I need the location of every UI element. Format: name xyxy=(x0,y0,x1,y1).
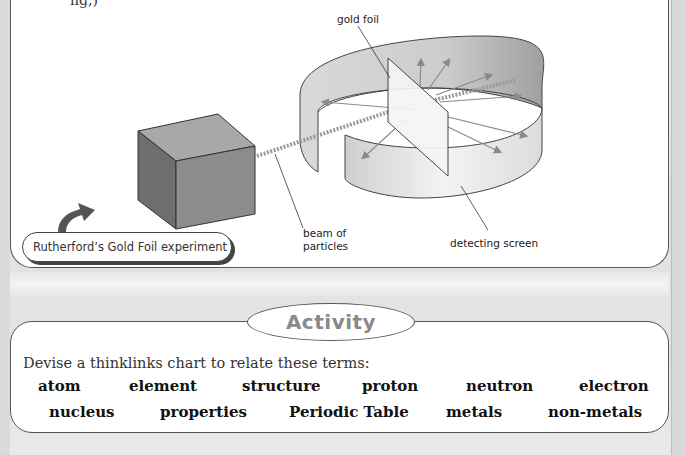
term-non-metals: non-metals xyxy=(548,403,642,421)
term-properties: properties xyxy=(160,403,247,421)
label-detecting-screen: detecting screen xyxy=(450,237,538,250)
term-nucleus: nucleus xyxy=(49,403,115,421)
term-neutron: neutron xyxy=(466,377,533,395)
activity-instruction: Devise a thinklinks chart to relate thes… xyxy=(23,355,370,371)
term-element: element xyxy=(129,377,197,395)
activity-title: Activity xyxy=(286,310,376,334)
caption-curved-arrow xyxy=(58,203,95,232)
term-metals: metals xyxy=(446,403,502,421)
term-structure: structure xyxy=(242,377,321,395)
figure-caption: Rutherford’s Gold Foil experiment xyxy=(22,232,232,262)
label-gold-foil: gold foil xyxy=(337,13,379,26)
radioactive-source-cube xyxy=(138,114,255,229)
section-divider xyxy=(10,272,669,296)
term-proton: proton xyxy=(362,377,418,395)
figure-caption-text: Rutherford’s Gold Foil experiment xyxy=(33,240,227,254)
label-beam-line1: beam of xyxy=(303,227,346,240)
term-periodic-table: Periodic Table xyxy=(289,403,409,421)
label-beam-line2: particles xyxy=(303,240,348,253)
activity-title-badge: Activity xyxy=(247,303,415,341)
term-atom: atom xyxy=(38,377,81,395)
term-electron: electron xyxy=(579,377,649,395)
